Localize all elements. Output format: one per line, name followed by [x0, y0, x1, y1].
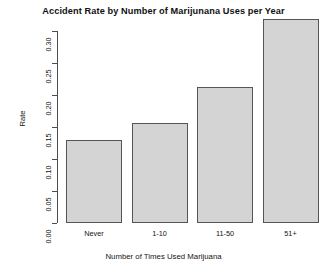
- bar: [66, 140, 122, 223]
- x-axis-tick-label: 11-50: [197, 229, 253, 238]
- bar: [132, 123, 188, 223]
- bar-chart: Accident Rate by Number of Marijunana Us…: [0, 0, 327, 275]
- bar: [263, 19, 319, 223]
- bars-layer: [0, 0, 327, 224]
- bar: [197, 87, 253, 223]
- x-axis-tick-label: 1-10: [132, 229, 188, 238]
- x-axis-title: Number of Times Used Marijuana: [0, 252, 327, 261]
- x-axis-tick-label: 51+: [263, 229, 319, 238]
- x-axis-tick-label: Never: [66, 229, 122, 238]
- y-axis-tick-label: 0.00: [44, 224, 53, 250]
